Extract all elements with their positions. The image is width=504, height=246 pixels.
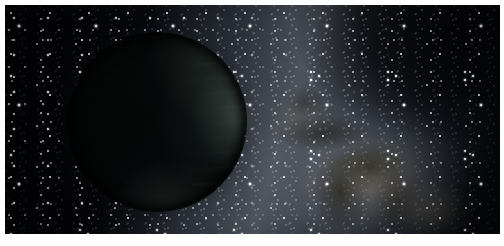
rogue-planet-illustration	[5, 5, 500, 234]
planet-limb-edge	[68, 33, 246, 211]
page-root: Artist's impression of a dark, unlit pla…	[0, 0, 504, 246]
dark-planet	[68, 33, 246, 211]
